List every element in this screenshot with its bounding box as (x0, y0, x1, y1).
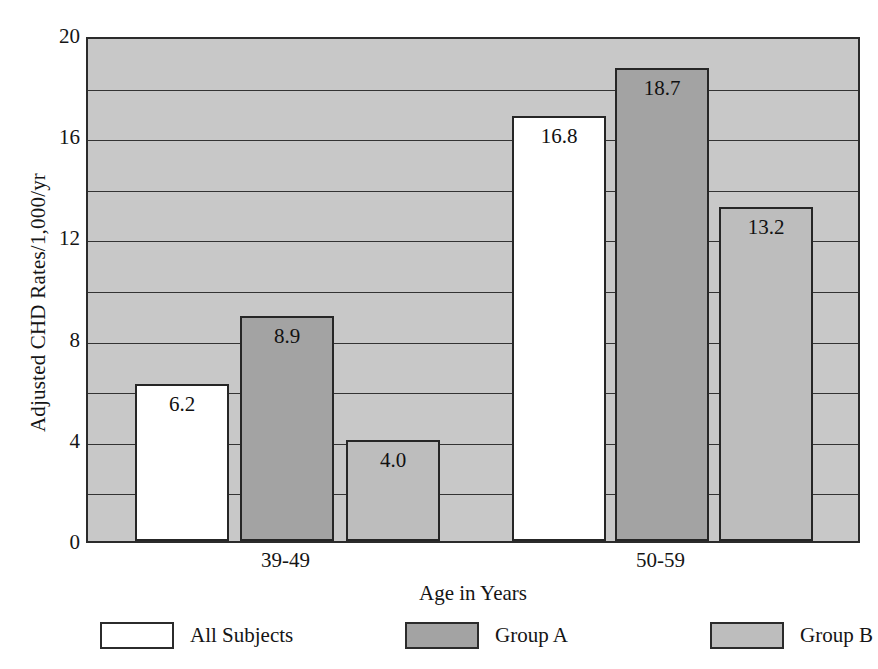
y-axis-tick-label: 16 (38, 127, 80, 148)
gridline (88, 191, 858, 192)
x-axis-tick-label: 50-59 (591, 548, 731, 573)
bar-value-label: 16.8 (514, 125, 604, 148)
legend-label: All Subjects (190, 623, 293, 648)
x-axis-tick-label: 39-49 (216, 548, 356, 573)
bar: 8.9 (240, 316, 334, 541)
y-axis-tick-label: 0 (38, 532, 80, 553)
y-axis-tick-labels: 048121620 (36, 0, 80, 669)
legend-item: All Subjects (100, 622, 293, 649)
y-axis-tick-label: 8 (38, 330, 80, 351)
bar-chart: Adjusted CHD Rates/1,000/yr 048121620 6.… (0, 0, 878, 669)
x-axis-title: Age in Years (86, 581, 860, 606)
plot-area: 6.216.88.918.74.013.2 (86, 37, 860, 543)
y-axis-tick-label: 4 (38, 431, 80, 452)
bar: 18.7 (615, 68, 709, 541)
legend-item: Group A (405, 622, 568, 649)
bar: 13.2 (719, 207, 813, 541)
gridline (88, 140, 858, 141)
legend-swatch-icon (405, 622, 479, 649)
y-axis-tick-label: 20 (38, 26, 80, 47)
bar: 4.0 (346, 440, 440, 541)
legend-item: Group B (710, 622, 873, 649)
legend-swatch-icon (710, 622, 784, 649)
legend-label: Group B (800, 623, 873, 648)
y-axis-tick-label: 12 (38, 228, 80, 249)
legend-label: Group A (495, 623, 568, 648)
bar-value-label: 8.9 (242, 325, 332, 348)
x-axis-tick-labels: 39-4950-59 (86, 548, 860, 580)
bar: 6.2 (135, 384, 229, 541)
legend-swatch-icon (100, 622, 174, 649)
gridline (88, 90, 858, 91)
chart-legend: All SubjectsGroup AGroup B (0, 622, 878, 662)
bar-value-label: 13.2 (721, 216, 811, 239)
bar-value-label: 6.2 (137, 393, 227, 416)
bar-value-label: 4.0 (348, 449, 438, 472)
bar: 16.8 (512, 116, 606, 541)
bar-value-label: 18.7 (617, 77, 707, 100)
